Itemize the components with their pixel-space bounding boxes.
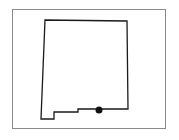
location-marker-icon[interactable] — [96, 107, 103, 114]
map-canvas — [0, 0, 179, 140]
state-outline — [41, 20, 128, 119]
